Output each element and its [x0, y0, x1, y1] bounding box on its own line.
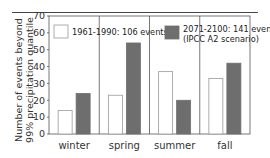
bar-summer-series-1	[159, 72, 173, 134]
x-tick-label: summer	[154, 140, 196, 151]
legend-label-2071-2100-line-1: 2071-2100: 141 events	[183, 24, 270, 34]
y-tick-label: 60	[33, 27, 45, 38]
bar-winter-series-2	[76, 94, 90, 134]
y-tick-label: 20	[33, 95, 45, 106]
y-axis-label: Number of events beyond 99% precipitatio…	[13, 17, 35, 143]
legend-label-1961-1990: 1961-1990: 106 events	[72, 27, 168, 37]
bar-summer-series-2	[177, 100, 191, 134]
x-tick-label: spring	[109, 140, 140, 151]
x-axis-categories: winterspringsummerfall	[58, 140, 232, 151]
y-axis-ticks: 010203040506070	[33, 10, 49, 139]
bar-fall-series-1	[209, 78, 223, 134]
x-tick-label: fall	[217, 140, 232, 151]
legend-swatch-1961-1990	[54, 25, 68, 38]
y-tick-label: 40	[33, 61, 45, 72]
y-tick-label: 70	[33, 10, 45, 21]
legend-label-2071-2100-line-2: (IPCC A2 scenario)	[183, 34, 259, 44]
precipitation-events-bar-chart: Number of events beyond 99% precipitatio…	[0, 0, 270, 158]
y-axis-label-line-1: Number of events beyond	[13, 18, 24, 142]
legend: 1961-1990: 106 events2071-2100: 141 even…	[54, 24, 270, 44]
y-tick-label: 30	[33, 78, 45, 89]
bar-spring-series-2	[126, 43, 140, 134]
x-tick-label: winter	[58, 140, 90, 151]
bar-spring-series-1	[108, 95, 122, 134]
y-tick-label: 50	[33, 44, 45, 55]
y-tick-label: 10	[33, 111, 45, 122]
legend-swatch-2071-2100	[165, 26, 179, 39]
bar-winter-series-1	[58, 110, 72, 134]
y-tick-label: 0	[39, 128, 45, 139]
bar-fall-series-2	[227, 63, 241, 134]
